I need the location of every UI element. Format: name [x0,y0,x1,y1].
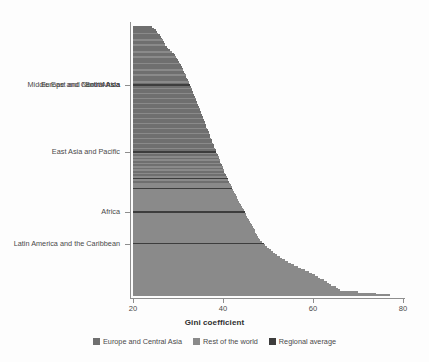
legend-swatch-icon [93,338,100,345]
legend-entry[interactable]: Rest of the world [193,337,258,346]
legend-label: Regional average [279,337,336,346]
x-axis-line [131,298,405,299]
gini-coefficient-chart: Europe and Central AsiaSouth AsiaMiddle … [0,0,429,362]
x-axis-title: Gini coefficient [0,318,429,327]
y-axis-tick [125,212,130,213]
y-axis-tick-label: Africa [101,208,120,216]
y-axis-tick-label: East Asia and Pacific [52,148,120,156]
x-axis-tick [223,299,224,303]
chart-legend: Europe and Central AsiaRest of the world… [0,337,429,346]
y-axis-tick [125,85,130,86]
y-axis-tick-label: Latin America and the Caribbean [14,240,120,248]
x-axis-tick-label: 40 [213,304,233,313]
x-axis-tick-label: 20 [123,304,143,313]
legend-entry[interactable]: Europe and Central Asia [93,337,182,346]
x-axis-tick [403,299,404,303]
y-axis-tick [125,244,130,245]
y-axis-line [130,22,131,299]
y-axis-tick-label: Middle East and North Africa [28,81,120,89]
x-axis-tick [313,299,314,303]
y-axis-tick [125,152,130,153]
legend-swatch-icon [193,338,200,345]
bar-rest [133,294,390,296]
legend-swatch-icon [269,338,276,345]
x-axis-tick [133,299,134,303]
x-axis-tick-label: 80 [393,304,413,313]
legend-entry[interactable]: Regional average [269,337,336,346]
legend-label: Rest of the world [203,337,258,346]
legend-label: Europe and Central Asia [103,337,182,346]
plot-area [133,26,403,296]
x-axis-tick-label: 60 [303,304,323,313]
